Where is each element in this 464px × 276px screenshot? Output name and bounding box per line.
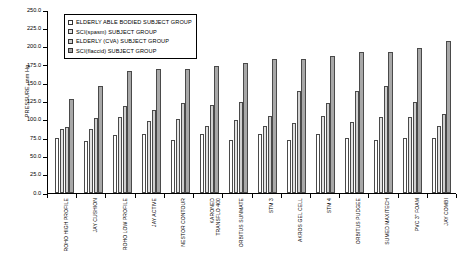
y-tick-mark <box>43 29 47 30</box>
x-axis-label: JAY ACTIVE <box>152 198 158 272</box>
bar-group <box>311 11 340 193</box>
bar <box>350 122 354 193</box>
bar <box>263 126 267 193</box>
bar <box>142 134 146 193</box>
bar <box>268 116 272 193</box>
legend-swatch <box>68 48 73 53</box>
bar <box>229 140 233 193</box>
bar <box>98 86 102 193</box>
bar <box>94 118 98 193</box>
x-axis-label: STM 3 <box>269 198 275 272</box>
bar <box>316 134 320 193</box>
y-tick-label: 50.0 <box>30 153 41 159</box>
bar-group <box>369 11 398 193</box>
bar <box>292 123 296 193</box>
y-tick-mark <box>43 175 47 176</box>
bar <box>330 56 334 193</box>
bar <box>287 140 291 193</box>
bar <box>355 91 359 193</box>
bar <box>359 52 363 193</box>
bar <box>65 127 69 193</box>
y-tick-mark <box>43 102 47 103</box>
bar <box>55 138 59 193</box>
x-tick-mark <box>456 194 457 198</box>
x-axis-label: ROHO LOW PROFILE <box>123 198 129 272</box>
x-axis-label: JAY CUSHION <box>93 198 99 272</box>
bar-group <box>427 11 456 193</box>
y-axis-title: PRESSURE, mm Hg <box>24 36 30 146</box>
x-axis-label: SUMED MAXITECH <box>385 198 391 272</box>
bar <box>258 134 262 193</box>
legend-item: SCI(spasm) SUBJECT GROUP <box>68 27 192 37</box>
legend-item: SCI(flaccid) SUBJECT GROUP <box>68 46 192 56</box>
bar <box>181 103 185 193</box>
legend-label: SCI(flaccid) SUBJECT GROUP <box>76 48 157 54</box>
bar <box>214 66 218 193</box>
bar-group <box>195 11 224 193</box>
bar <box>127 71 131 193</box>
bar <box>89 129 93 193</box>
bar <box>384 86 388 193</box>
y-tick-mark <box>43 11 47 12</box>
bar <box>118 117 122 193</box>
bar <box>374 140 378 193</box>
x-axis-label: JAY COMBI <box>444 198 450 272</box>
legend-item: ELDERLY ABLE BODIED SUBJECT GROUP <box>68 18 192 28</box>
x-axis-label: STM 4 <box>327 198 333 272</box>
bar <box>345 138 349 193</box>
bar-group <box>340 11 369 193</box>
x-axis-label: ROHO HIGH PROFILE <box>64 198 70 272</box>
bar <box>417 48 421 193</box>
x-axis-label: NESTOR CONTOUR <box>181 198 187 272</box>
bar <box>243 63 247 193</box>
bar <box>152 110 156 193</box>
bar <box>84 141 88 193</box>
y-tick-label: 250.0 <box>27 7 41 13</box>
y-tick-label: 25.0 <box>30 171 41 177</box>
bar <box>69 99 73 193</box>
bar-group <box>253 11 282 193</box>
bar <box>442 114 446 193</box>
bar <box>239 102 243 194</box>
y-tick-mark <box>43 157 47 158</box>
chart-root: PRESSURE, mm Hg 0.025.050.075.0100.0125.… <box>0 0 464 276</box>
bar <box>123 106 127 193</box>
bar <box>432 138 436 193</box>
bar-group <box>224 11 253 193</box>
y-tick-mark <box>43 65 47 66</box>
y-tick-mark <box>43 120 47 121</box>
bar <box>326 103 330 193</box>
bar <box>379 117 383 193</box>
bar <box>301 59 305 193</box>
legend-swatch <box>68 39 73 44</box>
x-axis-label: ORBITUS SUNMATE <box>239 198 245 272</box>
y-tick-label: 75.0 <box>30 135 41 141</box>
legend-item: ELDERLY (CVA) SUBJECT GROUP <box>68 37 192 47</box>
bar <box>413 102 417 194</box>
y-tick-label: 0.0 <box>33 190 41 196</box>
x-axis-label: AKROS GEL CELL <box>298 198 304 272</box>
bar <box>272 59 276 193</box>
bar <box>321 116 325 193</box>
bar <box>60 129 64 193</box>
bar <box>156 69 160 193</box>
legend-swatch <box>68 20 73 25</box>
bar <box>205 126 209 193</box>
bar-group <box>282 11 311 193</box>
bar <box>185 69 189 193</box>
y-tick-label: 125.0 <box>27 98 41 104</box>
bar <box>297 91 301 193</box>
bar <box>147 121 151 193</box>
bar <box>113 135 117 193</box>
y-tick-mark <box>43 47 47 48</box>
bar <box>446 41 450 193</box>
bar <box>437 126 441 193</box>
y-tick-label: 175.0 <box>27 62 41 68</box>
bar <box>210 105 214 193</box>
x-axis-label: PVC 3" FOAM <box>415 198 421 272</box>
bar <box>200 134 204 193</box>
bar <box>176 119 180 193</box>
bar <box>403 138 407 193</box>
x-axis-label: KARONED TRANSFLO 400 <box>210 198 221 272</box>
legend-label: SCI(spasm) SUBJECT GROUP <box>76 29 157 35</box>
